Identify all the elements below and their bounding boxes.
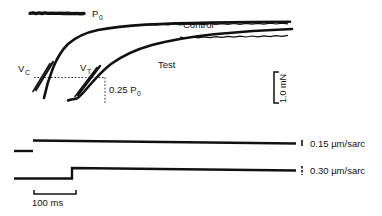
test-force-trace <box>68 29 292 101</box>
control-label: Control <box>183 19 214 30</box>
figure-panel: P 0 Control Test V C V T 0.25 P <box>0 0 382 216</box>
time-scale-bar <box>34 190 76 194</box>
force-fraction-label: 0.25 P <box>109 84 136 95</box>
length-upper-label: 0.15 µm/sarc <box>310 138 365 149</box>
p0-label-subscript: 0 <box>99 14 103 21</box>
vt-label-subscript: T <box>87 68 91 75</box>
vc-label: V <box>18 63 25 74</box>
time-scale-label: 100 ms <box>32 197 63 208</box>
vt-label: V <box>80 62 87 73</box>
length-trace-upper <box>33 141 296 144</box>
p0-reference-trace <box>30 13 84 14</box>
p0-label: P <box>92 8 98 19</box>
figure-canvas: P 0 Control Test V C V T 0.25 P <box>0 0 382 216</box>
vc-label-subscript: C <box>25 69 30 76</box>
force-scale-label: 1.0 mN <box>278 74 288 103</box>
length-lower-label: 0.30 µm/sarc <box>310 165 365 176</box>
test-label: Test <box>158 59 176 70</box>
length-trace-lower <box>14 168 296 179</box>
force-fraction-label-subscript: 0 <box>137 90 141 97</box>
